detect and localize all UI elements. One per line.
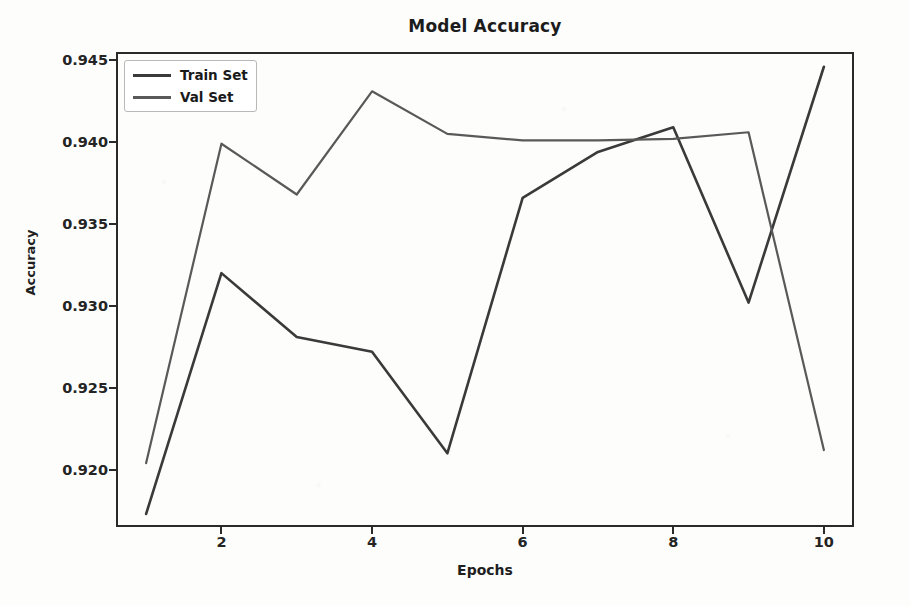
y-axis-tick-mark: [109, 387, 116, 389]
y-axis-tick-label: 0.930: [46, 298, 108, 314]
legend-label-train-set: Train Set: [180, 67, 248, 83]
x-axis-tick-mark: [823, 527, 825, 534]
x-axis-tick-label: 4: [352, 534, 392, 550]
x-axis-tick-mark: [220, 527, 222, 534]
x-axis-tick-mark: [371, 527, 373, 534]
y-axis-tick-label: 0.935: [46, 216, 108, 232]
chart-legend: Train Set Val Set: [124, 60, 257, 112]
y-axis-tick-label: 0.920: [46, 462, 108, 478]
legend-item-val-set: Val Set: [133, 87, 233, 107]
x-axis-label: Epochs: [116, 562, 854, 578]
legend-swatch-train-set: [133, 74, 171, 77]
x-axis-tick-label: 10: [804, 534, 844, 550]
y-axis-tick-mark: [109, 305, 116, 307]
x-axis-tick-mark: [672, 527, 674, 534]
x-axis-tick-label: 8: [653, 534, 693, 550]
legend-swatch-val-set: [133, 96, 171, 99]
y-axis-tick-mark: [109, 59, 116, 61]
y-axis-tick-mark: [109, 141, 116, 143]
y-axis-tick-label: 0.945: [46, 52, 108, 68]
y-axis-tick-labels: 0.9200.9250.9300.9350.9400.945: [0, 0, 108, 606]
y-axis-tick-mark: [109, 469, 116, 471]
plot-lines: [116, 52, 854, 527]
y-axis-tick-label: 0.940: [46, 134, 108, 150]
series-line-val-set: [146, 91, 824, 463]
y-axis-tick-mark: [109, 223, 116, 225]
y-axis-tick-label: 0.925: [46, 380, 108, 396]
legend-item-train-set: Train Set: [133, 65, 248, 85]
legend-label-val-set: Val Set: [180, 89, 233, 105]
x-axis-tick-mark: [522, 527, 524, 534]
chart-title: Model Accuracy: [116, 16, 854, 36]
x-axis-tick-label: 2: [201, 534, 241, 550]
x-axis-tick-label: 6: [503, 534, 543, 550]
chart-figure: Model Accuracy 0.9200.9250.9300.9350.940…: [0, 0, 910, 606]
y-axis-label: Accuracy: [23, 203, 38, 323]
